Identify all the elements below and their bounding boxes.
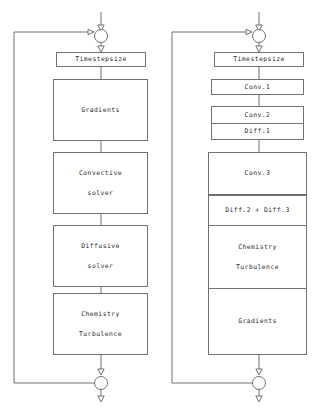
node-label: Diff.2 + Diff.3: [225, 207, 289, 214]
node-label: solver: [88, 190, 114, 197]
node-label: Turbulence: [236, 264, 279, 271]
node-diff-2-diff-3-right: Diff.2 + Diff.3: [209, 196, 306, 225]
node-label: Gradients: [238, 318, 277, 325]
node-gradients-left: Gradients: [53, 79, 148, 141]
node-diffusive-solver-left: Diffusive solver: [53, 225, 148, 287]
node-conv-2-right: Conv.2: [212, 107, 303, 123]
node-label: solver: [88, 263, 114, 270]
node-label: Gradients: [81, 107, 120, 114]
node-label: Turbulence: [79, 331, 122, 338]
node-gradients-right: Gradients: [209, 288, 306, 354]
node-label: Chemistry: [81, 311, 120, 318]
stack-conv2-diff1-right: Conv.2 Diff.1: [211, 106, 304, 140]
node-conv-3-right: Conv.3: [208, 152, 307, 195]
node-label: Conv.1: [245, 84, 271, 91]
node-chemistry-turbulence-right: Chemistry Turbulence: [209, 225, 306, 288]
node-label: Conv.3: [245, 170, 271, 177]
node-label: Timestepsize: [233, 56, 285, 63]
node-timestepsize-left: Timestepsize: [56, 52, 146, 67]
node-label: Diff.1: [245, 128, 271, 135]
right-flowchart: Timestepsize Conv.1 Conv.2 Diff.1 Conv.3…: [158, 0, 316, 412]
stack-diff-chem-grad-right: Diff.2 + Diff.3 Chemistry Turbulence Gra…: [208, 195, 307, 355]
node-chemistry-turbulence-left: Chemistry Turbulence: [53, 293, 148, 355]
node-label: Timestepsize: [75, 56, 127, 63]
node-diff-1-right: Diff.1: [212, 123, 303, 139]
node-conv-1-right: Conv.1: [211, 79, 304, 95]
node-timestepsize-right: Timestepsize: [214, 52, 304, 67]
node-label: Convective: [79, 170, 122, 177]
node-label: Conv.2: [245, 112, 271, 119]
flowchart-pair-diagram: Timestepsize Gradients Convective solver…: [0, 0, 316, 412]
node-convective-solver-left: Convective solver: [53, 152, 148, 214]
left-flowchart: Timestepsize Gradients Convective solver…: [0, 0, 158, 412]
node-label: Diffusive: [81, 243, 120, 250]
node-label: Chemistry: [238, 244, 277, 251]
